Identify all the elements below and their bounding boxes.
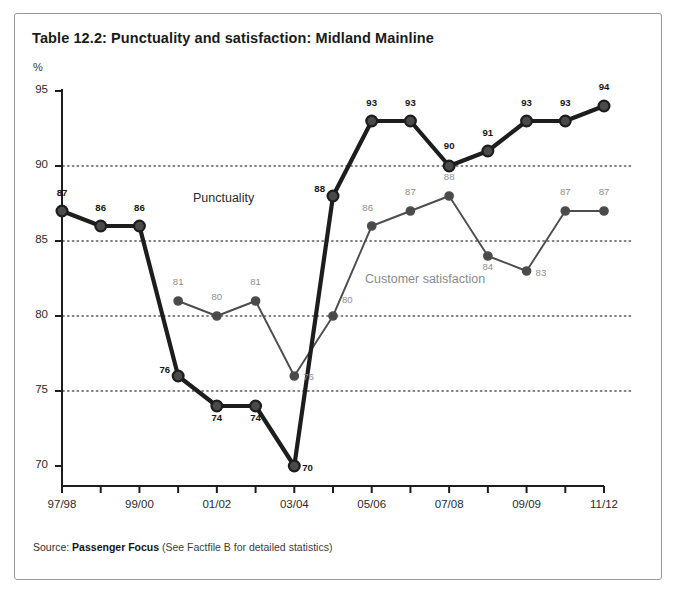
source-prefix: Source: bbox=[33, 541, 69, 553]
source-detail: (See Factfile B for detailed statistics) bbox=[162, 541, 332, 553]
data-point-label: 74 bbox=[203, 412, 231, 423]
data-point-label: 93 bbox=[396, 97, 424, 108]
data-point-label: 91 bbox=[474, 127, 502, 138]
x-axis-tick-label: 01/02 bbox=[187, 498, 247, 510]
x-axis-tick-label: 97/98 bbox=[32, 498, 92, 510]
x-axis-tick-label: 05/06 bbox=[342, 498, 402, 510]
chart-plot-area: 70758085909597/9899/0001/0203/0405/0607/… bbox=[0, 0, 676, 593]
series-label-punctuality: Punctuality bbox=[193, 191, 254, 205]
source-note: Source: Passenger Focus (See Factfile B … bbox=[33, 541, 332, 553]
data-point-label: 86 bbox=[125, 202, 153, 213]
data-point-label: 83 bbox=[536, 267, 547, 278]
data-point-label: 88 bbox=[435, 171, 463, 182]
chart-page: Table 12.2: Punctuality and satisfaction… bbox=[0, 0, 676, 593]
data-point-label: 93 bbox=[551, 97, 579, 108]
data-point-label: 87 bbox=[551, 186, 579, 197]
y-axis-tick-label: 90 bbox=[22, 158, 48, 170]
y-axis-tick-label: 85 bbox=[22, 233, 48, 245]
source-org: Passenger Focus bbox=[72, 541, 159, 553]
x-axis-tick-label: 11/12 bbox=[574, 498, 634, 510]
x-axis-tick-label: 99/00 bbox=[109, 498, 169, 510]
series-label-satisfaction: Customer satisfaction bbox=[365, 272, 485, 286]
data-point-label: 76 bbox=[303, 371, 314, 382]
data-point-label: 87 bbox=[396, 186, 424, 197]
data-point-label: 80 bbox=[203, 291, 231, 302]
data-point-label: 93 bbox=[358, 97, 386, 108]
data-point-label: 86 bbox=[87, 202, 115, 213]
y-axis-tick-label: 95 bbox=[22, 83, 48, 95]
data-point-label: 86 bbox=[354, 202, 382, 213]
data-point-label: 87 bbox=[590, 186, 618, 197]
data-point-label: 87 bbox=[48, 187, 76, 198]
x-axis-tick-label: 07/08 bbox=[419, 498, 479, 510]
data-point-label: 76 bbox=[142, 364, 170, 375]
x-axis-tick-label: 09/09 bbox=[497, 498, 557, 510]
data-point-label: 74 bbox=[242, 412, 270, 423]
data-point-label: 93 bbox=[513, 97, 541, 108]
y-axis-tick-label: 70 bbox=[22, 458, 48, 470]
x-axis-tick-label: 03/04 bbox=[264, 498, 324, 510]
data-point-label: 81 bbox=[164, 276, 192, 287]
data-point-label: 81 bbox=[242, 276, 270, 287]
data-point-label: 80 bbox=[342, 294, 353, 305]
data-point-label: 94 bbox=[590, 81, 618, 92]
data-point-label: 84 bbox=[474, 261, 502, 272]
y-axis-tick-label: 75 bbox=[22, 383, 48, 395]
data-point-label: 88 bbox=[297, 183, 325, 194]
data-point-label: 90 bbox=[435, 140, 463, 151]
y-axis-tick-label: 80 bbox=[22, 308, 48, 320]
data-point-label: 70 bbox=[302, 462, 313, 473]
